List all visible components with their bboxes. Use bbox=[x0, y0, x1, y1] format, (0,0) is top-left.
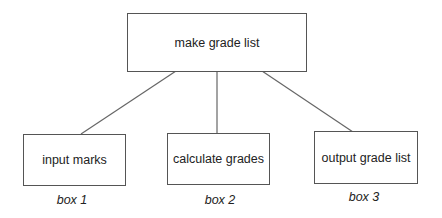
child-box-2: calculate grades bbox=[167, 133, 270, 185]
child-box-1-label: input marks bbox=[42, 153, 107, 167]
caption-box-3: box 3 bbox=[349, 190, 380, 204]
connector-root-to-box3 bbox=[262, 71, 353, 132]
root-box-make-grade-list: make grade list bbox=[127, 13, 307, 72]
caption-box-1: box 1 bbox=[57, 193, 88, 207]
root-box-label: make grade list bbox=[175, 36, 260, 50]
child-box-2-label: calculate grades bbox=[173, 152, 264, 166]
child-box-3-label: output grade list bbox=[322, 151, 411, 165]
child-box-3: output grade list bbox=[314, 131, 418, 184]
connector-root-to-box1 bbox=[81, 71, 176, 134]
child-box-1: input marks bbox=[23, 134, 126, 186]
caption-box-2: box 2 bbox=[205, 193, 236, 207]
